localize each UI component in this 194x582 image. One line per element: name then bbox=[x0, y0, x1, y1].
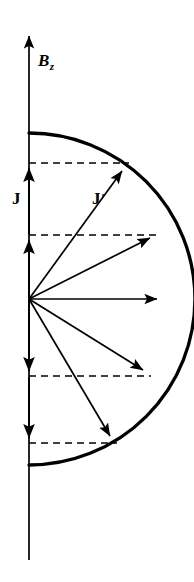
axial-current-label: J bbox=[12, 190, 21, 207]
radial-current-arrows bbox=[29, 171, 157, 436]
radial-current-label: J′ bbox=[92, 190, 104, 207]
axial-current-label-text: J bbox=[12, 189, 21, 208]
radial-arrow-2 bbox=[29, 238, 150, 299]
vector-diagram bbox=[0, 0, 194, 582]
field-axis-label-subscript: z bbox=[50, 60, 54, 72]
radial-arrow-4 bbox=[29, 299, 143, 370]
field-axis-label: Bz bbox=[38, 52, 54, 72]
radial-arrow-5 bbox=[29, 299, 110, 436]
field-axis-label-base: B bbox=[38, 51, 49, 70]
radial-current-label-prime: ′ bbox=[101, 191, 104, 207]
radial-current-label-text: J bbox=[92, 189, 101, 208]
figure-container: Bz J J′ bbox=[0, 0, 194, 582]
